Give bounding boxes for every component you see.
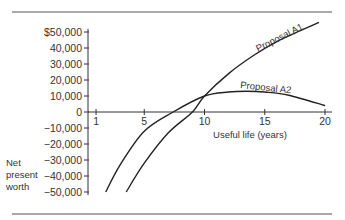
y-axis-title: Net present worth	[5, 157, 40, 192]
series-label-a1: Proposal A1	[254, 21, 305, 54]
y-tick-label: −20,000	[44, 138, 82, 150]
x-axis: 15101520	[88, 109, 332, 127]
y-tick-label: −10,000	[44, 122, 82, 134]
y-tick-label: 0	[76, 106, 82, 118]
x-tick-label: 20	[319, 115, 331, 127]
x-tick-label: 10	[199, 115, 211, 127]
series-label-a2: Proposal A2	[240, 79, 292, 95]
x-tick-label: 5	[141, 115, 147, 127]
y-tick-label: $50,000	[44, 26, 82, 38]
y-tick-label: −30,000	[44, 154, 82, 166]
curves	[106, 22, 325, 192]
x-tick-label: 1	[93, 115, 99, 127]
curve-proposal-a1	[126, 22, 319, 192]
y-tick-label: −40,000	[44, 170, 82, 182]
y-axis: $50,00040,00030,00020,00010,0000−10,000−…	[44, 26, 89, 198]
x-axis-title: Useful life (years)	[213, 129, 287, 140]
x-tick-label: 15	[259, 115, 271, 127]
y-tick-label: 20,000	[50, 74, 82, 86]
npw-chart: $50,00040,00030,00020,00010,0000−10,000−…	[0, 0, 345, 220]
y-tick-label: 40,000	[50, 42, 82, 54]
y-tick-label: −50,000	[44, 186, 82, 198]
curve-proposal-a2	[106, 91, 325, 192]
y-tick-label: 30,000	[50, 58, 82, 70]
y-tick-label: 10,000	[50, 90, 82, 102]
